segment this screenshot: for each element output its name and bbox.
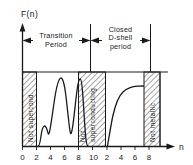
arrow-right-dshell [142, 38, 151, 44]
closed-d-shell-curve [108, 86, 144, 146]
transition-period-span: Transition Period [23, 31, 91, 50]
tick-label-2: 4 [48, 153, 53, 162]
dshell-period-line3: period [110, 42, 131, 51]
region-label-not-supercond: Not supercond. [27, 92, 35, 142]
arrow-right-transition [82, 38, 91, 44]
region-not-superconducting-left: Not supercond. [23, 72, 37, 147]
arrow-left-dshell [91, 38, 100, 44]
closed-d-shell-period-span: Closed D-shell period [91, 25, 151, 53]
transition-period-line2: Period [45, 40, 67, 49]
x-axis-arrowhead [167, 143, 176, 149]
x-axis-label: n [179, 142, 184, 152]
tick-label-5: 10 [89, 153, 98, 162]
region-not-superconducting-middle: Not superconducting [79, 72, 106, 147]
tick-label-1: 2 [34, 153, 39, 162]
y-axis-label: F(n) [21, 9, 38, 19]
transition-period-line1: Transition [39, 31, 72, 40]
tick-label-0: 0 [20, 153, 25, 162]
region-label-not-metallic: Not metallic [149, 102, 156, 142]
region-not-metallic: Not metallic [144, 72, 160, 147]
dshell-period-line2: D-shell [109, 33, 133, 42]
tick-label-4: 8 [76, 153, 81, 162]
region-label-not-middle-line2: superconducting [89, 88, 97, 142]
figure-container: F(n) n Transition Period Closed D-shell … [0, 0, 193, 165]
x-axis-tick-labels: 0 2 4 6 8 10 2 4 6 8 [20, 153, 152, 162]
tick-label-7: 4 [119, 153, 124, 162]
tick-label-6: 2 [105, 153, 110, 162]
dshell-period-line1: Closed [109, 25, 133, 34]
arrow-left-transition [23, 38, 32, 44]
tick-label-8: 6 [133, 153, 138, 162]
tick-label-9: 8 [147, 153, 152, 162]
y-axis-arrowhead [20, 23, 26, 32]
tick-label-3: 6 [62, 153, 67, 162]
chart-svg: F(n) n Transition Period Closed D-shell … [0, 0, 193, 165]
